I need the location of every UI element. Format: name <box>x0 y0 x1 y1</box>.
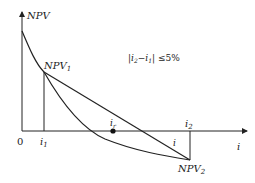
origin-label: 0 <box>17 136 23 147</box>
ir-label: ir <box>110 118 117 129</box>
interpolation-line <box>44 72 190 160</box>
irr-point <box>110 128 115 133</box>
i2-label: i2 <box>185 118 193 131</box>
curve-label: i <box>173 138 176 148</box>
npv1-label: NPV1 <box>43 60 71 73</box>
npv2-label: NPV2 <box>177 163 206 176</box>
condition-formula: |i2−i1| ≤5% <box>128 53 180 64</box>
y-axis-label: NPV <box>26 10 51 21</box>
npv-interpolation-diagram: NPV i 0 NPV1 NPV2 i1 i2 ir i |i2−i1| ≤5% <box>0 0 255 183</box>
x-axis-label: i <box>237 141 240 152</box>
i1-label: i1 <box>40 136 48 149</box>
